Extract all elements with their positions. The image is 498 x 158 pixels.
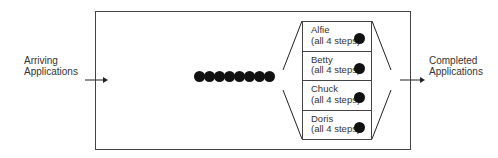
worker-stack: Alfie (all 4 steps) Betty (all 4 steps) … <box>302 21 372 140</box>
in-process-application <box>354 122 365 133</box>
arrow-in-icon <box>103 77 108 83</box>
in-process-application <box>354 33 365 44</box>
in-process-application <box>354 92 365 103</box>
process-diagram: Arriving Applications Completed Applicat… <box>0 0 498 158</box>
worker-betty: Betty (all 4 steps) <box>303 52 371 82</box>
in-process-application <box>354 63 365 74</box>
worker-chuck: Chuck (all 4 steps) <box>303 81 371 111</box>
arrow-out-icon <box>420 77 425 83</box>
worker-alfie: Alfie (all 4 steps) <box>303 22 371 52</box>
queued-application <box>264 71 275 82</box>
worker-doris: Doris (all 4 steps) <box>303 111 371 141</box>
